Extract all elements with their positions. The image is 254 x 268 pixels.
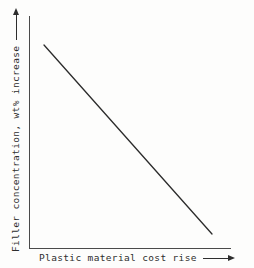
arrow-up-head xyxy=(13,8,19,15)
series-line-filler-concentration xyxy=(44,45,212,234)
arrow-right-icon xyxy=(203,255,235,261)
arrow-up-icon xyxy=(13,8,19,40)
x-axis-label: Plastic material cost rise xyxy=(39,252,235,264)
plot-area xyxy=(0,0,254,268)
arrow-up-shaft xyxy=(16,14,17,40)
arrow-right-shaft xyxy=(203,258,229,259)
chart-figure: Plastic material cost rise Filler concen… xyxy=(0,0,254,268)
x-axis-label-text: Plastic material cost rise xyxy=(39,252,197,264)
arrow-right-head xyxy=(228,255,235,261)
y-axis-label-text: Filler concentration, wt% increase xyxy=(10,46,22,252)
y-axis-label: Filler concentration, wt% increase xyxy=(6,0,26,252)
